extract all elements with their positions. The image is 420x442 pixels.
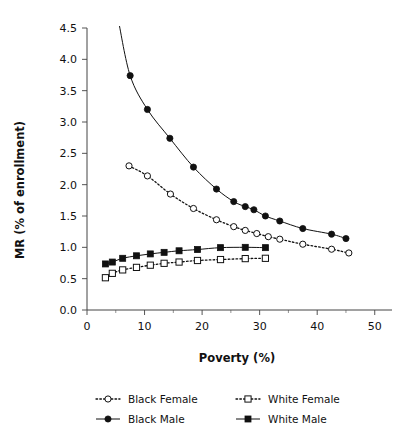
legend-marker — [105, 396, 111, 402]
x-tick-label: 10 — [138, 320, 152, 333]
data-point — [167, 191, 173, 197]
y-tick-label: 1.0 — [60, 241, 78, 254]
data-point — [254, 230, 260, 236]
series-black-male — [119, 22, 349, 242]
series-line — [105, 258, 265, 277]
y-tick-label: 0.5 — [60, 273, 78, 286]
data-point — [328, 246, 334, 252]
data-point — [147, 251, 153, 257]
series-line — [129, 166, 349, 253]
y-axis-title: MR (% of enrollment) — [13, 121, 27, 259]
y-tick-label: 1.5 — [60, 210, 78, 223]
data-point — [176, 248, 182, 254]
data-point — [251, 207, 257, 213]
data-point — [242, 244, 248, 250]
data-point — [133, 253, 139, 259]
y-tick-label: 0.0 — [60, 304, 78, 317]
data-point — [102, 261, 108, 267]
data-point — [161, 249, 167, 255]
legend-label: White Male — [268, 413, 327, 425]
x-axis-title: Poverty (%) — [199, 351, 275, 365]
data-point — [265, 234, 271, 240]
data-point — [213, 217, 219, 223]
data-point — [343, 235, 349, 241]
y-axis-ticks: 0.00.51.01.52.02.53.03.54.04.5 — [60, 22, 88, 317]
data-point — [127, 73, 133, 79]
legend-item-white-female[interactable]: White Female — [236, 393, 340, 405]
legend-label: Black Male — [128, 413, 185, 425]
data-point — [277, 218, 283, 224]
data-point — [328, 231, 334, 237]
y-tick-label: 3.5 — [60, 85, 78, 98]
series-line — [119, 22, 346, 239]
data-point — [190, 164, 196, 170]
x-tick-label: 0 — [84, 320, 91, 333]
legend-marker — [245, 416, 251, 422]
data-point — [109, 259, 115, 265]
legend-item-black-female[interactable]: Black Female — [96, 393, 198, 405]
line-chart: MR (% of enrollment) Poverty (%) 0.00.51… — [0, 0, 420, 442]
data-point — [346, 250, 352, 256]
data-point — [176, 259, 182, 265]
data-point — [120, 255, 126, 261]
legend-marker — [105, 416, 111, 422]
data-point — [190, 205, 196, 211]
data-point — [194, 257, 200, 263]
x-tick-label: 20 — [195, 320, 209, 333]
series-black-female — [126, 163, 352, 256]
legend-item-white-male[interactable]: White Male — [236, 413, 327, 425]
data-point — [102, 275, 108, 281]
y-tick-label: 4.0 — [60, 53, 78, 66]
series-line — [105, 247, 265, 264]
series-layer — [102, 22, 352, 281]
data-point — [133, 264, 139, 270]
data-point — [109, 270, 115, 276]
data-point — [262, 255, 268, 261]
x-tick-label: 40 — [310, 320, 324, 333]
data-point — [231, 198, 237, 204]
y-tick-label: 2.0 — [60, 179, 78, 192]
data-point — [217, 256, 223, 262]
data-point — [144, 106, 150, 112]
data-point — [144, 173, 150, 179]
data-point — [231, 224, 237, 230]
data-point — [242, 256, 248, 262]
data-point — [126, 163, 132, 169]
legend-label: Black Female — [128, 393, 198, 405]
data-point — [161, 260, 167, 266]
data-point — [300, 241, 306, 247]
y-tick-label: 4.5 — [60, 22, 78, 35]
data-point — [218, 245, 224, 251]
data-point — [242, 227, 248, 233]
x-tick-label: 30 — [253, 320, 267, 333]
x-axis-ticks: 01020304050 — [84, 310, 382, 333]
legend-label: White Female — [268, 393, 340, 405]
data-point — [262, 213, 268, 219]
y-tick-label: 2.5 — [60, 147, 78, 160]
data-point — [242, 204, 248, 210]
legend-item-black-male[interactable]: Black Male — [96, 413, 185, 425]
chart-legend: Black FemaleWhite FemaleBlack MaleWhite … — [96, 393, 340, 425]
chart-figure: MR (% of enrollment) Poverty (%) 0.00.51… — [0, 0, 420, 442]
data-point — [213, 186, 219, 192]
x-tick-label: 50 — [368, 320, 382, 333]
legend-marker — [245, 396, 251, 402]
series-white-female — [102, 255, 268, 281]
y-tick-label: 3.0 — [60, 116, 78, 129]
data-point — [262, 245, 268, 251]
data-point — [277, 236, 283, 242]
data-point — [194, 247, 200, 253]
data-point — [167, 135, 173, 141]
data-point — [147, 262, 153, 268]
data-point — [120, 267, 126, 273]
data-point — [300, 225, 306, 231]
